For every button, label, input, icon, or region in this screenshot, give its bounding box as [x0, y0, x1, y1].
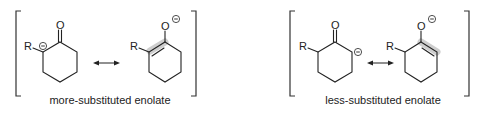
panel-more-substituted: O R O R more-: [16, 11, 196, 106]
r-substituent: R: [130, 40, 138, 52]
right-bracket: [191, 11, 196, 96]
panel-less-substituted: O R O R less-subst: [290, 11, 469, 106]
oxygen-atom: O: [417, 20, 426, 32]
r-bond: [308, 48, 318, 52]
right-bracket: [464, 11, 469, 96]
negative-charge-icon: [39, 42, 46, 49]
r-substituent: R: [299, 40, 307, 52]
resonance-arrow-icon: [367, 61, 394, 66]
r-bond: [395, 48, 405, 52]
left-bracket: [16, 11, 21, 96]
oxygen-atom: O: [331, 19, 340, 31]
negative-charge-icon: [172, 15, 179, 22]
enolate-structure: O R: [386, 15, 437, 82]
left-bracket: [290, 11, 295, 96]
oxygen-atom: O: [161, 20, 170, 32]
r-substituent: R: [24, 40, 32, 52]
oxygen-atom: O: [56, 19, 65, 31]
ketone-carbanion-structure: O R: [24, 19, 77, 82]
caption-more-substituted: more-substituted enolate: [49, 94, 170, 106]
cyclohexane-ring: [318, 42, 352, 82]
resonance-arrow-icon: [93, 61, 120, 66]
enolate-structure: O R: [130, 15, 181, 82]
negative-charge-icon: [428, 15, 435, 22]
negative-charge-icon: [354, 48, 361, 55]
cyclohexane-ring: [43, 42, 77, 82]
enolate-resonance-diagram: O R O R more-: [0, 0, 484, 118]
caption-less-substituted: less-substituted enolate: [325, 94, 441, 106]
r-substituent: R: [386, 40, 394, 52]
ketone-carbanion-structure: O R: [299, 19, 362, 82]
